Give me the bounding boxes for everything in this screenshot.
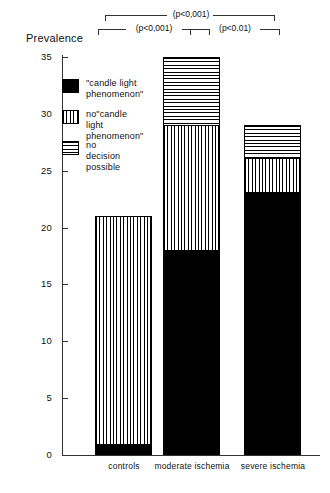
bar-controls xyxy=(95,216,152,455)
y-axis-title: Prevalence xyxy=(26,32,83,44)
x-axis-label-moderate-ischemia: moderate ischemia xyxy=(152,461,232,471)
y-tick-label: 25 xyxy=(26,166,52,176)
bracket-line xyxy=(98,29,126,30)
x-axis xyxy=(62,455,320,456)
bracket-line xyxy=(190,29,210,30)
y-tick-label: 35 xyxy=(26,52,52,62)
y-tick-label: 30 xyxy=(26,109,52,119)
y-tick-label: 20 xyxy=(26,223,52,233)
bracket-pvalue-label: (p<0,001) xyxy=(126,22,182,34)
bracket-pvalue-label: (p<0,001) xyxy=(163,8,219,20)
y-tick xyxy=(62,398,68,399)
bar-segment-no-decision xyxy=(244,125,301,159)
y-tick xyxy=(62,341,68,342)
y-tick-label: 15 xyxy=(26,279,52,289)
bracket-end-tick xyxy=(98,29,99,35)
legend-item-candle-light: "candle light phenomenon" xyxy=(62,78,143,100)
significance-bracket-right: (p<0.01) xyxy=(190,22,280,36)
y-tick xyxy=(62,455,68,456)
bracket-end-tick xyxy=(279,29,280,35)
bracket-line xyxy=(260,29,280,30)
bracket-end-tick xyxy=(105,15,106,21)
vertical-stripe-swatch-icon xyxy=(62,110,79,124)
bar-segment-candle-light xyxy=(95,444,152,455)
bar-segment-no-candle-light xyxy=(95,216,152,444)
bracket-line xyxy=(105,15,167,16)
bar-segment-no-decision xyxy=(163,57,220,126)
y-tick-label: 10 xyxy=(26,336,52,346)
bar-segment-no-candle-light xyxy=(163,126,220,250)
bracket-pvalue-label: (p<0.01) xyxy=(210,22,260,34)
y-tick-label: 5 xyxy=(26,393,52,403)
significance-bracket-outer: (p<0,001) xyxy=(105,8,275,22)
bracket-end-tick xyxy=(274,15,275,21)
bracket-line xyxy=(213,15,275,16)
bar-segment-candle-light xyxy=(244,193,301,455)
legend-label: no"candle light phenomenon" xyxy=(86,109,143,142)
solid-black-swatch-icon xyxy=(62,79,79,93)
prevalence-stacked-bar-chart: Prevalence (p<0,001) (p<0,001) (p<0.01) … xyxy=(0,0,330,493)
bar-segment-candle-light xyxy=(163,250,220,455)
y-tick xyxy=(62,284,68,285)
horizontal-stripe-swatch-icon xyxy=(62,141,79,155)
legend-item-no-decision: no decision possible xyxy=(62,140,120,173)
bracket-end-tick xyxy=(190,29,191,35)
bar-segment-no-candle-light xyxy=(244,159,301,193)
bar-moderate-ischemia xyxy=(163,57,220,455)
y-tick xyxy=(62,228,68,229)
legend-label: "candle light phenomenon" xyxy=(86,78,143,100)
x-axis-label-severe-ischemia: severe ischemia xyxy=(233,461,313,471)
bar-severe-ischemia xyxy=(244,125,301,455)
legend-label: no decision possible xyxy=(86,140,120,173)
y-tick xyxy=(62,57,68,58)
legend-item-no-candle-light: no"candle light phenomenon" xyxy=(62,109,143,142)
y-tick-label: 0 xyxy=(26,450,52,460)
